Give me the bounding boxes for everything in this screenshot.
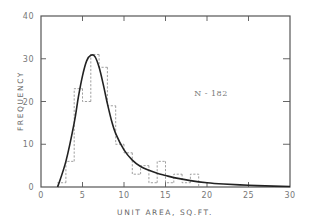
y-axis-title: FREQUENCY: [16, 71, 25, 131]
y-tick-label: 10: [23, 140, 34, 149]
x-axis-title: UNIT AREA, SQ.FT.: [117, 208, 213, 217]
y-tick-label: 40: [23, 12, 34, 21]
y-tick-label: 0: [28, 183, 34, 192]
x-tick-label: 30: [284, 191, 295, 200]
y-tick-label: 30: [23, 55, 34, 64]
x-tick-label: 20: [201, 191, 212, 200]
fitted-curve: [58, 55, 290, 187]
histogram-outline: [58, 54, 199, 187]
histogram-chart: 051015202530 010203040 UNIT AREA, SQ.FT.…: [0, 0, 309, 224]
x-tick-labels: 051015202530: [38, 191, 295, 200]
x-tick-label: 5: [80, 191, 86, 200]
x-tick-label: 15: [160, 191, 171, 200]
x-tick-label: 10: [118, 191, 129, 200]
sample-size-annotation: N - 182: [194, 89, 228, 98]
x-tick-label: 25: [243, 191, 254, 200]
x-tick-label: 0: [38, 191, 44, 200]
histogram-bars: [58, 54, 199, 187]
